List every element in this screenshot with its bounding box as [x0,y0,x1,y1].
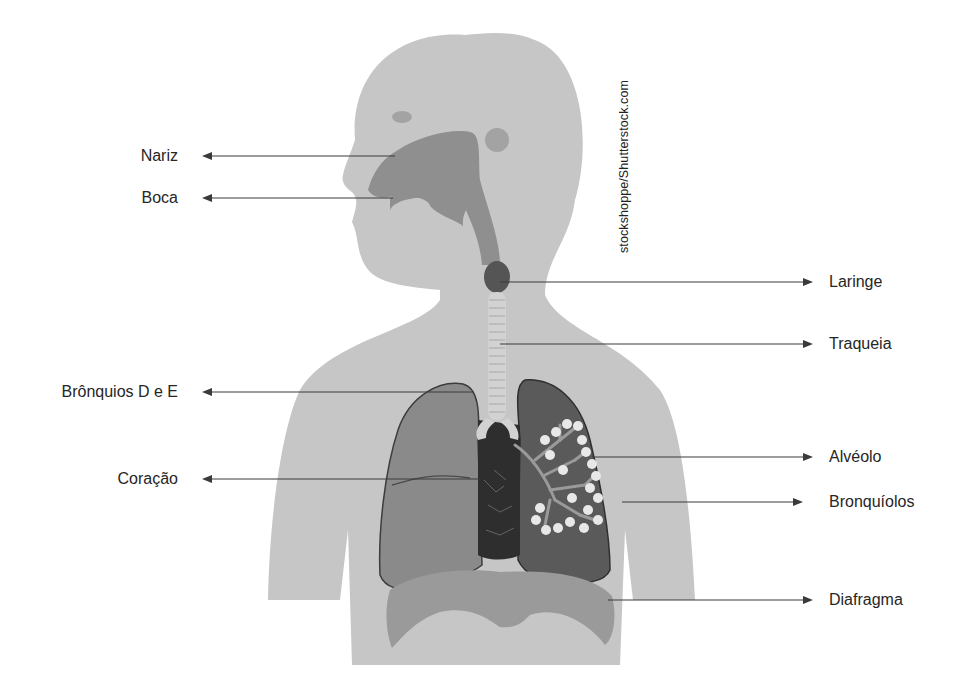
trachea [488,292,506,420]
anatomy-illustration [0,0,964,685]
larynx [484,261,510,293]
respiratory-system-diagram: Nariz Boca Brônquios D e E Coração Larin… [0,0,964,685]
label-diafragma: Diafragma [829,591,903,609]
label-bronquios: Brônquios D e E [61,383,178,401]
label-alveolo: Alvéolo [829,448,881,466]
image-credit-watermark: stockshoppe/Shutterstock.com [617,80,631,253]
label-bronquiolos: Bronquíolos [829,493,914,511]
label-nariz: Nariz [141,147,178,165]
label-coracao: Coração [118,470,178,488]
label-laringe: Laringe [829,273,882,291]
label-traqueia: Traqueia [829,335,892,353]
label-boca: Boca [142,189,178,207]
